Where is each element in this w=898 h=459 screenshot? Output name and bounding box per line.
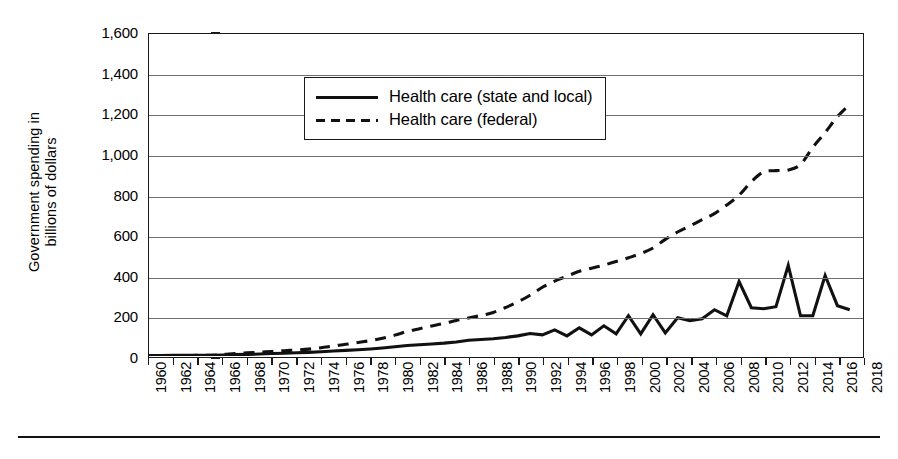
y-axis-title-line-1: Government spending in xyxy=(26,112,44,272)
plot-area: Health care (state and local)Health care… xyxy=(148,33,864,358)
x-tick-mark-2000 xyxy=(642,358,643,365)
x-tick-mark-1964 xyxy=(197,358,198,365)
x-tick-label-1970: 1970 xyxy=(277,362,292,393)
y-axis-labels: 1,6001,4001,2001,0008006004002000 xyxy=(72,33,138,358)
x-tick-mark-1980 xyxy=(395,358,396,365)
gridline-600 xyxy=(149,237,863,238)
x-tick-mark-1990 xyxy=(518,358,519,365)
x-tick-label-2014: 2014 xyxy=(821,362,836,393)
y-axis-title: Government spending in billions of dolla… xyxy=(23,27,63,357)
y-tick-label-1000: 1,000 xyxy=(76,147,138,162)
x-tick-label-1982: 1982 xyxy=(426,362,441,393)
x-tick-mark-2012 xyxy=(790,358,791,365)
x-tick-mark-1992 xyxy=(543,358,544,365)
gridline-800 xyxy=(149,197,863,198)
x-tick-label-1964: 1964 xyxy=(203,362,218,393)
y-tick-label-0: 0 xyxy=(76,350,138,365)
x-tick-mark-1960 xyxy=(148,358,149,365)
y-tick-label-1200: 1,200 xyxy=(76,106,138,121)
y-tick-label-400: 400 xyxy=(76,269,138,284)
x-tick-label-1990: 1990 xyxy=(524,362,539,393)
legend-label: Health care (state and local) xyxy=(389,88,592,105)
y-tick-label-800: 800 xyxy=(76,188,138,203)
legend-item-2: Health care (federal) xyxy=(316,108,592,131)
y-axis-title-line-2: billions of dollars xyxy=(43,137,61,246)
x-tick-mark-1976 xyxy=(346,358,347,365)
x-axis-labels: 1960196219641966196819701972197419761978… xyxy=(148,362,864,428)
x-tick-label-1966: 1966 xyxy=(228,362,243,393)
x-tick-label-1962: 1962 xyxy=(179,362,194,393)
x-tick-label-1978: 1978 xyxy=(376,362,391,393)
x-tick-label-2012: 2012 xyxy=(796,362,811,393)
x-tick-mark-2008 xyxy=(741,358,742,365)
gridline-1000 xyxy=(149,156,863,157)
x-tick-label-1972: 1972 xyxy=(302,362,317,393)
x-tick-mark-1966 xyxy=(222,358,223,365)
chart-figure: Government spending in billions of dolla… xyxy=(0,0,898,459)
x-tick-label-1988: 1988 xyxy=(500,362,515,393)
legend-label: Health care (federal) xyxy=(389,111,537,128)
x-tick-mark-2014 xyxy=(815,358,816,365)
x-tick-label-2006: 2006 xyxy=(722,362,737,393)
x-tick-mark-2010 xyxy=(765,358,766,365)
y-tick-label-600: 600 xyxy=(76,228,138,243)
y-tick-label-200: 200 xyxy=(76,309,138,324)
x-tick-mark-1984 xyxy=(444,358,445,365)
x-tick-mark-1994 xyxy=(568,358,569,365)
x-tick-label-1998: 1998 xyxy=(623,362,638,393)
x-tick-mark-1972 xyxy=(296,358,297,365)
x-tick-label-2018: 2018 xyxy=(870,362,885,393)
x-tick-label-2010: 2010 xyxy=(771,362,786,393)
y-tick-label-1600: 1,600 xyxy=(76,25,138,40)
legend-item-1: Health care (state and local) xyxy=(316,85,592,108)
x-tick-mark-1998 xyxy=(617,358,618,365)
x-tick-label-2002: 2002 xyxy=(672,362,687,393)
x-tick-mark-1988 xyxy=(494,358,495,365)
x-tick-mark-2006 xyxy=(716,358,717,365)
x-tick-mark-1970 xyxy=(271,358,272,365)
x-tick-mark-1996 xyxy=(592,358,593,365)
x-tick-label-1984: 1984 xyxy=(450,362,465,393)
x-tick-mark-1974 xyxy=(321,358,322,365)
x-tick-mark-2018 xyxy=(864,358,865,365)
x-tick-mark-1968 xyxy=(247,358,248,365)
x-tick-label-1992: 1992 xyxy=(549,362,564,393)
x-tick-label-1974: 1974 xyxy=(327,362,342,393)
series-line-health-care-state-and-local xyxy=(149,265,850,355)
x-tick-label-2008: 2008 xyxy=(747,362,762,393)
x-tick-mark-2002 xyxy=(666,358,667,365)
chart-legend: Health care (state and local)Health care… xyxy=(304,77,606,140)
x-tick-label-2004: 2004 xyxy=(697,362,712,393)
x-tick-label-1976: 1976 xyxy=(352,362,367,393)
gridline-1400 xyxy=(149,75,863,76)
x-tick-label-1960: 1960 xyxy=(154,362,169,393)
x-tick-label-2000: 2000 xyxy=(648,362,663,393)
x-tick-label-2016: 2016 xyxy=(845,362,860,393)
gridline-200 xyxy=(149,318,863,319)
x-tick-mark-2016 xyxy=(839,358,840,365)
legend-swatch-dashed xyxy=(316,114,378,126)
y-tick-label-1400: 1,400 xyxy=(76,66,138,81)
x-tick-label-1986: 1986 xyxy=(475,362,490,393)
x-tick-mark-1986 xyxy=(469,358,470,365)
legend-swatch-solid xyxy=(316,91,378,103)
x-tick-label-1980: 1980 xyxy=(401,362,416,393)
x-tick-label-1968: 1968 xyxy=(253,362,268,393)
x-tick-label-1996: 1996 xyxy=(598,362,613,393)
x-tick-mark-1982 xyxy=(420,358,421,365)
x-tick-label-1994: 1994 xyxy=(574,362,589,393)
x-tick-mark-1978 xyxy=(370,358,371,365)
gridline-400 xyxy=(149,278,863,279)
x-tick-mark-2004 xyxy=(691,358,692,365)
x-tick-mark-1962 xyxy=(173,358,174,365)
bottom-rule xyxy=(18,436,880,438)
